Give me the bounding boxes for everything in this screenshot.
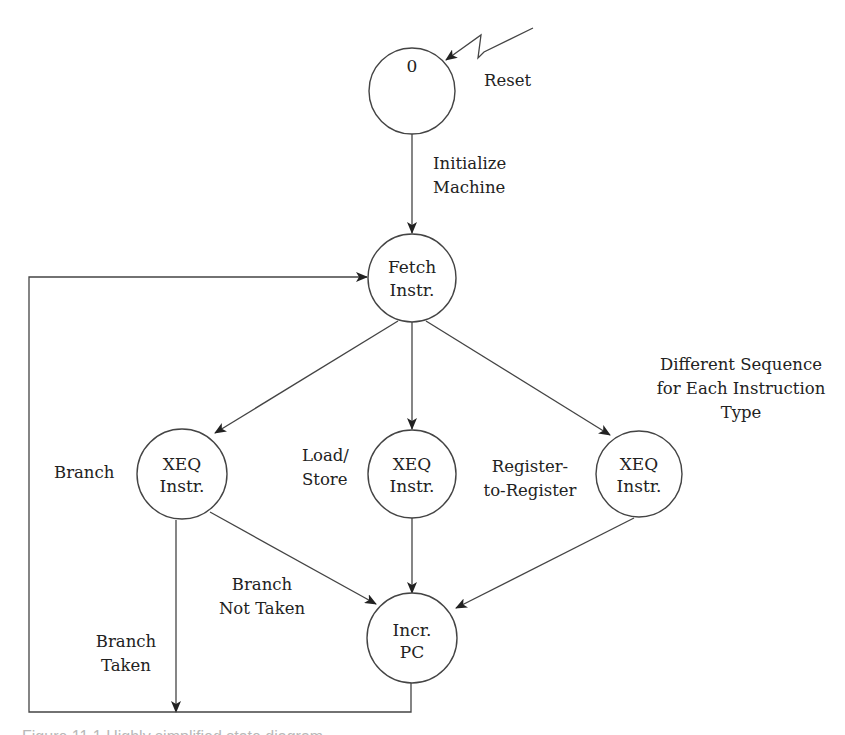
label-branch-not-taken-2: Not Taken — [219, 599, 306, 618]
state-xeq-load-store: XEQ Instr. — [368, 430, 456, 518]
state-incr-pc-label-2: PC — [400, 642, 424, 662]
edge-fetch-to-reg-reg — [426, 321, 610, 435]
state-fetch-label-2: Instr. — [390, 280, 435, 300]
state-fetch: Fetch Instr. — [368, 234, 456, 322]
label-reg-reg-2: to-Register — [484, 481, 577, 500]
label-branch-taken-1: Branch — [96, 632, 157, 651]
state-xeq-reg-reg: XEQ Instr. — [596, 431, 682, 517]
state-xeq-load-store-label-1: XEQ — [393, 454, 431, 474]
state-xeq-branch-label-1: XEQ — [163, 454, 201, 474]
state-diagram: 0 Fetch Instr. XEQ Instr. XEQ Instr. XEQ… — [0, 0, 845, 735]
label-branch-not-taken-1: Branch — [232, 575, 293, 594]
reset-lightning-arrow — [446, 28, 533, 60]
edge-fetch-to-branch — [215, 321, 398, 433]
label-load-store-2: Store — [302, 470, 348, 489]
state-xeq-load-store-label-2: Instr. — [390, 476, 435, 496]
label-different-2: for Each Instruction — [657, 379, 826, 398]
label-reset: Reset — [484, 71, 531, 90]
label-different-1: Different Sequence — [660, 355, 822, 374]
edge-reg-reg-to-incr — [456, 518, 634, 608]
state-incr-pc: Incr. PC — [367, 593, 457, 683]
label-branch-taken-2: Taken — [101, 656, 151, 675]
label-initialize-2: Machine — [433, 178, 505, 197]
state-xeq-reg-reg-label-2: Instr. — [617, 476, 662, 496]
figure-caption: Figure 11.1 Highly simplified state diag… — [22, 726, 323, 735]
state-reset-label: 0 — [407, 56, 418, 76]
label-different-3: Type — [721, 403, 762, 422]
state-xeq-branch: XEQ Instr. — [137, 429, 227, 519]
state-incr-pc-label-1: Incr. — [393, 620, 432, 640]
label-initialize-1: Initialize — [433, 154, 506, 173]
label-reg-reg-1: Register- — [492, 457, 568, 476]
label-branch: Branch — [54, 463, 115, 482]
state-xeq-reg-reg-label-1: XEQ — [620, 454, 658, 474]
state-fetch-label-1: Fetch — [388, 257, 436, 277]
label-load-store-1: Load/ — [302, 446, 349, 465]
state-xeq-branch-label-2: Instr. — [160, 476, 205, 496]
state-reset: 0 — [369, 48, 455, 134]
